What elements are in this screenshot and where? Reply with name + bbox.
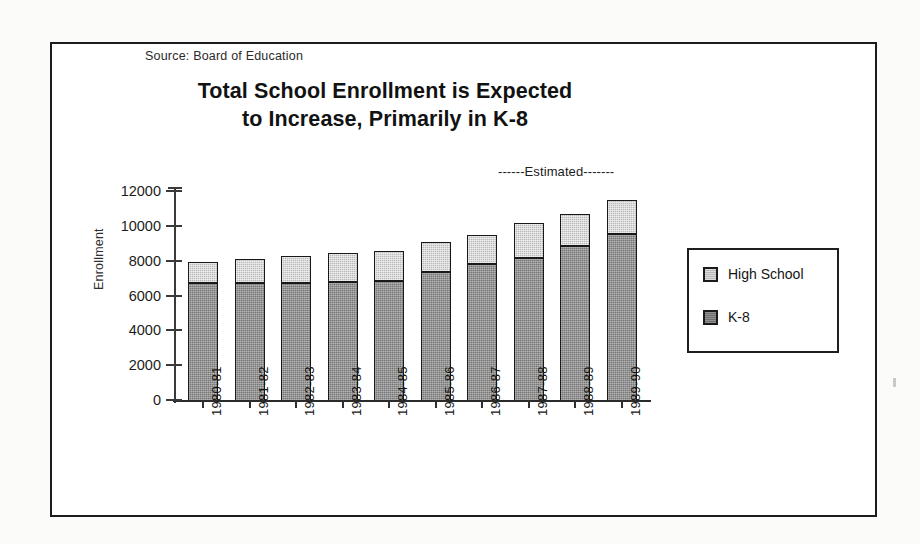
bar-segment-high-school	[607, 200, 637, 235]
y-axis-tick	[166, 295, 182, 297]
x-axis-label-1981-82: 1981-82	[256, 366, 271, 416]
legend-label-k8: K-8	[728, 309, 750, 325]
bar-segment-high-school	[281, 256, 311, 284]
plot-area: 020004000600080001000012000 1980-811981-…	[185, 191, 650, 400]
x-axis-label-1980-81: 1980-81	[209, 366, 224, 416]
bar-segment-high-school	[560, 214, 590, 247]
x-axis-label-1989-90: 1989-90	[628, 366, 643, 416]
chart-legend: High School K-8	[687, 248, 839, 353]
estimated-annotation: ------Estimated-------	[498, 164, 614, 179]
bar-segment-high-school	[421, 242, 451, 273]
x-axis-tick	[528, 400, 530, 408]
scanned-page: Source: Board of Education Total School …	[0, 0, 920, 544]
bar-segment-high-school	[374, 251, 404, 281]
y-axis-cap	[168, 187, 182, 189]
y-axis-tick-label: 6000	[129, 288, 161, 304]
x-axis-tick	[295, 400, 297, 408]
x-axis-tick	[574, 400, 576, 408]
legend-item-k8[interactable]: K-8	[703, 309, 750, 325]
bar-segment-high-school	[188, 262, 218, 285]
y-axis-tick	[166, 225, 182, 227]
x-axis-line	[173, 400, 651, 402]
chart-title: Total School Enrollment is Expected to I…	[120, 78, 650, 133]
y-axis-label: Enrollment	[92, 228, 106, 290]
x-axis-tick	[342, 400, 344, 408]
y-axis-tick-label: 10000	[121, 218, 161, 234]
chart-title-line-1: Total School Enrollment is Expected	[120, 78, 650, 106]
x-axis-label-1984-85: 1984-85	[395, 366, 410, 416]
chart-title-line-2: to Increase, Primarily in K-8	[120, 106, 650, 134]
x-axis-label-1988-89: 1988-89	[581, 366, 596, 416]
legend-swatch-high-school-icon	[703, 267, 718, 282]
y-axis-tick	[166, 399, 182, 401]
bar-segment-high-school	[467, 235, 497, 265]
bar-segment-high-school	[328, 253, 358, 283]
source-note: Source: Board of Education	[145, 49, 303, 63]
x-axis-tick	[388, 400, 390, 408]
x-axis-tick	[202, 400, 204, 408]
y-axis-tick	[166, 364, 182, 366]
x-axis-label-1987-88: 1987-88	[535, 366, 550, 416]
y-axis-tick-label: 4000	[129, 322, 161, 338]
bar-segment-high-school	[235, 259, 265, 284]
scan-artifact	[893, 378, 896, 387]
x-axis-label-1986-87: 1986-87	[488, 366, 503, 416]
legend-item-high-school[interactable]: High School	[703, 266, 804, 282]
legend-swatch-k8-icon	[703, 310, 718, 325]
y-axis-tick	[166, 190, 182, 192]
bar-segment-high-school	[514, 223, 544, 259]
y-axis-tick	[166, 329, 182, 331]
y-axis-tick-label: 0	[153, 392, 161, 408]
y-axis-tick-label: 2000	[129, 357, 161, 373]
x-axis-label-1983-84: 1983-84	[349, 366, 364, 416]
x-axis-label-1985-86: 1985-86	[442, 366, 457, 416]
x-axis-tick	[249, 400, 251, 408]
y-axis-tick-label: 8000	[129, 253, 161, 269]
x-axis-tick	[481, 400, 483, 408]
x-axis-label-1982-83: 1982-83	[302, 366, 317, 416]
x-axis-tick	[621, 400, 623, 408]
y-axis-tick	[166, 260, 182, 262]
y-axis-tick-label: 12000	[121, 183, 161, 199]
x-axis-tick	[435, 400, 437, 408]
legend-label-high-school: High School	[728, 266, 804, 282]
